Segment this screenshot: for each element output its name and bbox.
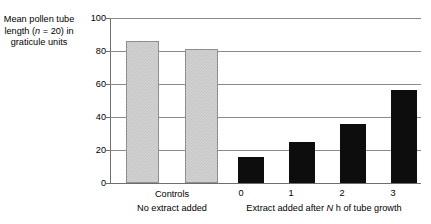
x-tick-label-3: 3 xyxy=(380,189,406,198)
y-tick-labels: 100 80 60 40 20 0 xyxy=(78,18,106,183)
bar-extract-1 xyxy=(289,142,315,183)
x-tick-label-1: 1 xyxy=(278,189,304,198)
bar-control-2 xyxy=(185,49,218,183)
bar-control-1 xyxy=(126,41,159,183)
group-label-controls-line1: Controls xyxy=(119,189,225,199)
bar-extract-0 xyxy=(238,157,264,183)
y-tick-mark-80 xyxy=(106,51,110,52)
gridline-0-baseline xyxy=(110,183,421,184)
y-axis-title-line2-pre: length ( xyxy=(4,26,35,36)
pollen-tube-bar-chart: Mean pollen tube length (n = 20) in grat… xyxy=(0,0,431,224)
plot-area xyxy=(110,18,421,183)
group-label-extract-pre: Extract added after xyxy=(246,203,326,213)
y-tick-label-60: 60 xyxy=(80,80,106,89)
y-axis-title-line3: graticule units xyxy=(11,37,68,47)
y-tick-mark-0 xyxy=(106,183,110,184)
y-axis-title-line2-post: = 20) in xyxy=(40,26,73,36)
y-tick-label-100: 100 xyxy=(80,14,106,23)
x-tick-label-0: 0 xyxy=(228,189,254,198)
group-label-controls-line2: No extract added xyxy=(111,203,233,213)
x-tick-label-2: 2 xyxy=(329,189,355,198)
y-tick-label-40: 40 xyxy=(80,113,106,122)
y-axis-title: Mean pollen tube length (n = 20) in grat… xyxy=(2,14,76,49)
bar-extract-2 xyxy=(340,124,366,183)
y-tick-mark-60 xyxy=(106,84,110,85)
y-tick-label-20: 20 xyxy=(80,146,106,155)
y-tick-mark-20 xyxy=(106,150,110,151)
group-label-extract-post: h of tube growth xyxy=(333,203,401,213)
gridline-100 xyxy=(110,18,421,19)
y-axis-title-line1: Mean pollen tube xyxy=(4,14,75,24)
y-tick-mark-40 xyxy=(106,117,110,118)
bar-extract-3 xyxy=(391,90,417,183)
group-label-extract-line2: Extract added after N h of tube growth xyxy=(224,203,424,213)
y-tick-label-80: 80 xyxy=(80,47,106,56)
y-tick-label-0: 0 xyxy=(80,179,106,188)
y-tick-mark-100 xyxy=(106,18,110,19)
